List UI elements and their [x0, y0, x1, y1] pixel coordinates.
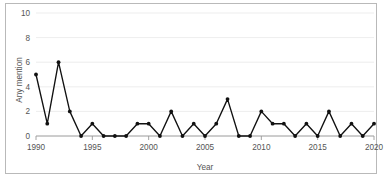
data-point	[226, 97, 230, 101]
data-point	[169, 110, 173, 114]
y-tick-label: 2	[25, 107, 30, 116]
data-point	[34, 73, 38, 77]
y-tick-label: 0	[25, 132, 30, 141]
x-tick-label: 1990	[27, 143, 46, 152]
data-point	[282, 122, 286, 126]
data-point	[293, 134, 297, 138]
data-point	[327, 110, 331, 114]
x-tick-label: 2020	[365, 143, 384, 152]
data-point	[361, 134, 365, 138]
data-point	[79, 134, 83, 138]
data-point	[124, 134, 128, 138]
x-tick-label: 1995	[83, 143, 102, 152]
data-point	[259, 110, 263, 114]
x-tick-label: 2015	[309, 143, 328, 152]
series-line	[36, 62, 374, 136]
x-axis-title: Year	[197, 163, 214, 172]
data-point	[316, 134, 320, 138]
y-tick-label: 8	[25, 34, 30, 43]
data-point	[181, 134, 185, 138]
data-point	[372, 122, 376, 126]
data-point	[248, 134, 252, 138]
data-point	[192, 122, 196, 126]
data-point	[147, 122, 151, 126]
data-series	[34, 60, 376, 138]
chart-figure: 0246810 1990199520002005201020152020 Any…	[0, 0, 384, 181]
data-point	[68, 110, 72, 114]
data-point	[214, 122, 218, 126]
y-axis-title: Any mention	[15, 57, 24, 103]
data-point	[102, 134, 106, 138]
data-point	[338, 134, 342, 138]
data-point	[203, 134, 207, 138]
gridlines	[36, 13, 374, 136]
data-point	[350, 122, 354, 126]
data-point	[271, 122, 275, 126]
line-chart: 0246810 1990199520002005201020152020 Any…	[0, 0, 384, 181]
data-point	[237, 134, 241, 138]
x-tick-label: 2005	[196, 143, 215, 152]
data-point	[90, 122, 94, 126]
data-point	[45, 122, 49, 126]
data-point	[57, 60, 61, 64]
data-point	[158, 134, 162, 138]
y-tick-label: 4	[25, 83, 30, 92]
data-point	[136, 122, 140, 126]
x-tick-label: 2000	[140, 143, 159, 152]
data-point	[305, 122, 309, 126]
y-tick-label: 6	[25, 58, 30, 67]
data-point	[113, 134, 117, 138]
x-tick-label: 2010	[252, 143, 271, 152]
y-tick-label: 10	[21, 9, 31, 18]
x-tick-labels: 1990199520002005201020152020	[27, 143, 384, 152]
